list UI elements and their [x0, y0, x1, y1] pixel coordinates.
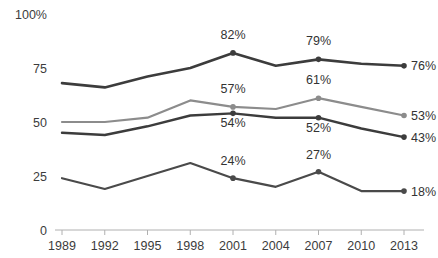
x-axis-ticks [62, 230, 404, 235]
line-chart: 0255075100% 82%79%76%57%61%53%54%52%43%2… [0, 0, 438, 258]
data-label: 18% [411, 185, 436, 199]
data-point-marker [401, 63, 407, 69]
x-axis-labels: 198919921995199820012004200720102013 [48, 239, 418, 253]
data-point-marker [316, 169, 322, 175]
data-point-marker [316, 95, 322, 101]
y-tick-label: 100% [15, 8, 47, 22]
data-label: 54% [220, 116, 245, 130]
data-point-marker [230, 175, 236, 181]
data-point-marker [401, 188, 407, 194]
data-point-marker [316, 115, 322, 121]
data-label: 24% [220, 154, 245, 168]
data-label: 57% [220, 82, 245, 96]
data-label: 61% [306, 73, 331, 87]
x-tick-label: 2001 [219, 239, 247, 253]
x-tick-label: 2013 [390, 239, 418, 253]
y-tick-label: 0 [40, 224, 47, 238]
x-tick-label: 1998 [176, 239, 204, 253]
y-tick-label: 25 [33, 170, 47, 184]
data-point-marker [230, 104, 236, 110]
x-tick-label: 2010 [347, 239, 375, 253]
data-point-marker [230, 111, 236, 117]
data-point-marker [401, 113, 407, 119]
x-tick-label: 1989 [48, 239, 76, 253]
x-tick-label: 1992 [91, 239, 119, 253]
data-point-marker [230, 50, 236, 56]
data-label: 27% [306, 148, 331, 162]
data-point-marker [316, 57, 322, 63]
data-label: 43% [411, 131, 436, 145]
y-tick-label: 75 [33, 62, 47, 76]
data-label: 82% [220, 28, 245, 42]
y-tick-label: 50 [33, 116, 47, 130]
x-tick-label: 1995 [134, 239, 162, 253]
x-tick-label: 2007 [305, 239, 333, 253]
x-tick-label: 2004 [262, 239, 290, 253]
chart-canvas: 0255075100% 82%79%76%57%61%53%54%52%43%2… [0, 0, 438, 258]
data-label: 76% [411, 59, 436, 73]
data-label: 79% [306, 34, 331, 48]
data-point-marker [401, 134, 407, 140]
data-label: 53% [411, 109, 436, 123]
data-label: 52% [306, 121, 331, 135]
y-axis-labels: 0255075100% [15, 8, 47, 238]
